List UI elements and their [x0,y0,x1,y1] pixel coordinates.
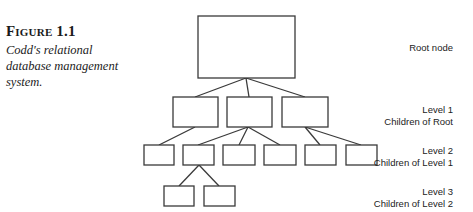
node-level2 [223,145,255,165]
node-root [198,16,295,78]
connectors-root [195,78,305,97]
label-level2-subtitle: Children of Level 1 [374,157,453,169]
label-level3: Level 3 Children of Level 2 [374,186,453,210]
node-level3 [164,186,194,206]
label-level2-title: Level 2 [374,145,453,157]
label-level3-subtitle: Children of Level 2 [374,198,453,210]
label-root-text: Root node [409,42,453,54]
node-level1 [227,97,272,127]
node-level2 [183,145,214,165]
node-level2 [346,145,377,165]
label-root-node: Root node [409,42,453,54]
node-level3 [204,186,235,206]
label-level1-subtitle: Children of Root [384,116,453,128]
node-level2 [264,145,296,165]
node-level2 [305,145,336,165]
connectors-level1 [159,127,361,145]
label-level3-title: Level 3 [374,186,453,198]
label-level1: Level 1 Children of Root [384,104,453,128]
label-level1-title: Level 1 [384,104,453,116]
node-level1 [173,97,218,127]
connectors-level2 [179,165,219,186]
node-level2 [144,145,174,165]
node-level1 [282,97,328,127]
label-level2: Level 2 Children of Level 1 [374,145,453,169]
